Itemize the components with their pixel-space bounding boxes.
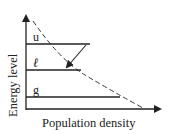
x-axis-label: Population density [42,116,136,130]
level-l-label: ℓ [33,55,39,70]
energy-level-diagram: u ℓ g Energy level Population density [0,0,169,134]
level-u-label: u [33,30,39,44]
level-g-label: g [33,83,39,97]
y-axis-label: Energy level [6,53,20,117]
transition-arrow [67,45,86,67]
population-curve [33,21,143,108]
